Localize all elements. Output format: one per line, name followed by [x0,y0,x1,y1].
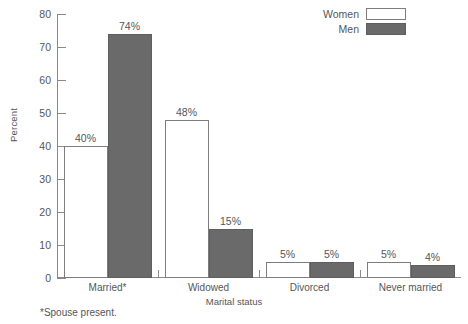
bar-slot: 4% [411,14,455,278]
legend-item-men: Men [323,23,406,35]
bar-group: 5%4%Never married [360,14,461,278]
y-tick-label: 0 [45,272,51,284]
y-tick-label: 70 [39,41,51,53]
legend: Women Men [323,8,406,38]
y-tick-label: 20 [39,206,51,218]
bar-slot: 48% [165,14,209,278]
y-tick-mark [57,278,66,279]
bar-women[interactable] [165,120,209,278]
bar-value-label: 5% [324,248,339,260]
y-tick-label: 80 [39,8,51,20]
bar-women[interactable] [64,146,108,278]
y-tick-label: 30 [39,173,51,185]
y-tick-label: 40 [39,140,51,152]
plot-area: 01020304050607080 40%74%Married*48%15%Wi… [57,14,461,278]
bar-value-label: 40% [75,132,96,144]
bar-value-label: 15% [220,215,241,227]
bar-women[interactable] [367,262,411,279]
bar-chart: Percent 01020304050607080 40%74%Married*… [0,0,468,324]
legend-label-men: Men [339,23,359,35]
bar-slot: 5% [367,14,411,278]
bar-slot: 5% [310,14,354,278]
bar-group: 48%15%Widowed [158,14,259,278]
bar-value-label: 74% [119,20,140,32]
y-tick-label: 60 [39,74,51,86]
legend-swatch-men [366,23,406,35]
bar-slot: 15% [209,14,253,278]
x-category-label: Divorced [290,282,329,293]
legend-label-women: Women [323,8,359,20]
bar-value-label: 48% [176,106,197,118]
bar-women[interactable] [266,262,310,279]
bar-slot: 40% [64,14,108,278]
bar-men[interactable] [411,265,455,278]
bar-value-label: 5% [280,248,295,260]
bar-men[interactable] [108,34,152,278]
footnote: *Spouse present. [40,307,117,318]
legend-swatch-women [366,8,406,20]
y-axis-title: Percent [8,108,19,142]
y-tick-label: 50 [39,107,51,119]
bar-men[interactable] [209,229,253,279]
x-axis-title: Marital status [0,296,468,307]
bar-value-label: 4% [425,251,440,263]
x-category-label: Married* [89,282,127,293]
bar-value-label: 5% [381,248,396,260]
y-tick-label: 10 [39,239,51,251]
x-category-label: Never married [379,282,442,293]
bar-men[interactable] [310,262,354,279]
x-category-label: Widowed [188,282,229,293]
legend-item-women: Women [323,8,406,20]
bar-slot: 5% [266,14,310,278]
bar-group: 5%5%Divorced [259,14,360,278]
bar-slot: 74% [108,14,152,278]
bar-group: 40%74%Married* [57,14,158,278]
